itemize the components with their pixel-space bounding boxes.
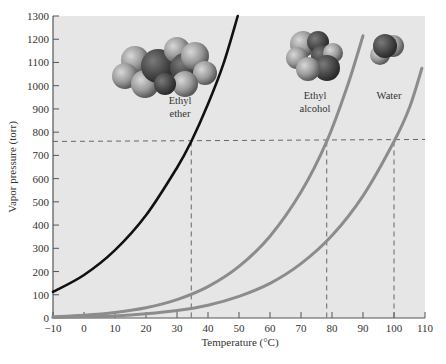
x-tick-label: −10 [44, 322, 62, 334]
y-tick-label: 1100 [27, 56, 49, 68]
x-tick-label: 60 [265, 322, 277, 334]
ethyl-alcohol-label-line1: Ethyl [304, 90, 327, 101]
y-tick-label: 200 [33, 266, 50, 278]
x-tick-label: 80 [327, 322, 339, 334]
x-tick-label: 40 [203, 322, 215, 334]
x-tick-label: 110 [417, 322, 434, 334]
y-tick-label: 700 [33, 149, 50, 161]
y-tick-label: 1200 [27, 33, 50, 45]
y-tick-label: 1000 [27, 80, 50, 92]
y-tick-label: 1300 [27, 10, 50, 22]
x-tick-label: 100 [386, 322, 403, 334]
y-tick-label: 900 [33, 103, 50, 115]
ethyl-ether-label-line2: ether [170, 108, 191, 119]
y-tick-label: 300 [33, 242, 50, 254]
plot-area [53, 16, 425, 318]
x-tick-label: 20 [141, 322, 153, 334]
y-tick-label: 400 [33, 219, 50, 231]
x-axis-title: Temperature (°C) [201, 336, 279, 349]
y-axis-title: Vapor pressure (torr) [6, 121, 19, 213]
x-tick-label: 90 [358, 322, 370, 334]
x-tick-label: 10 [110, 322, 122, 334]
y-tick-label: 500 [33, 196, 50, 208]
water-label: Water [377, 90, 402, 101]
y-tick-label: 800 [33, 126, 50, 138]
y-tick-label: 100 [33, 289, 50, 301]
x-tick-label: 50 [234, 322, 246, 334]
vapor-pressure-chart: 0100200300400500600700800900100011001200… [0, 0, 446, 364]
y-tick-label: 600 [33, 173, 50, 185]
x-tick-label: 0 [81, 322, 87, 334]
x-tick-label: 30 [172, 322, 184, 334]
ethyl-ether-label-line1: Ethyl [169, 95, 192, 106]
ethyl-alcohol-label-line2: alcohol [300, 103, 331, 114]
x-tick-label: 70 [296, 322, 308, 334]
